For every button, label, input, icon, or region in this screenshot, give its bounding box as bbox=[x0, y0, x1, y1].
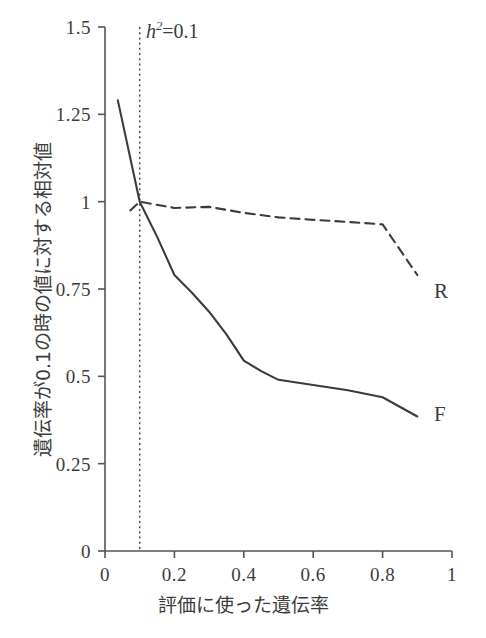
annotation-symbol: h bbox=[146, 20, 156, 42]
series-label-r: R bbox=[434, 281, 448, 302]
y-axis-tick-label: 1.5 bbox=[0, 18, 91, 37]
annotation-value: 0.1 bbox=[173, 20, 198, 42]
y-axis-title: 遺伝率が0.1の時の値に対する相対値 bbox=[34, 90, 53, 510]
x-axis-tick-label: 0.2 bbox=[162, 565, 187, 584]
y-axis-ticks bbox=[98, 27, 105, 551]
x-axis-tick-label: 0.6 bbox=[301, 565, 326, 584]
axes-group bbox=[105, 27, 452, 551]
series-line-r bbox=[130, 202, 417, 275]
x-axis-tick-label: 0 bbox=[100, 565, 110, 584]
annotation-equals: = bbox=[162, 20, 173, 42]
x-axis-tick-label: 0.4 bbox=[231, 565, 256, 584]
x-axis-title: 評価に使った遺伝率 bbox=[0, 596, 486, 615]
series-label-f: F bbox=[434, 404, 446, 425]
y-axis-tick-label: 0 bbox=[0, 542, 91, 561]
chart-figure: 00.250.50.7511.251.5 00.20.40.60.81 遺伝率が… bbox=[0, 0, 486, 638]
heritability-annotation-label: h2=0.1 bbox=[146, 20, 198, 41]
series-line-f bbox=[118, 100, 417, 416]
x-axis-tick-label: 0.8 bbox=[370, 565, 395, 584]
x-axis-ticks bbox=[105, 551, 452, 558]
x-axis-tick-label: 1 bbox=[447, 565, 457, 584]
